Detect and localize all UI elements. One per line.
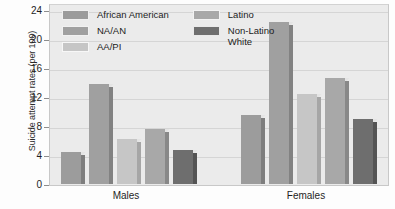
bar-side (289, 25, 293, 184)
bar-males-aa-pi (117, 139, 141, 184)
legend-column-left: African American NA/AN AA/PI (62, 9, 169, 57)
bar-side (165, 132, 169, 184)
bar-side (373, 122, 377, 184)
bar-males-african-american (61, 152, 85, 184)
y-tick-label-20: 20 (20, 35, 42, 45)
bar-females-aa-pi (297, 94, 321, 184)
bar-side (261, 118, 265, 184)
legend-item-non-latino-white: Non-Latino White (193, 25, 274, 47)
bar-chart-figure: Suicide attempt rates (per 100) 24 20 16… (0, 0, 395, 209)
legend-swatch-icon (193, 26, 220, 36)
bar-side (345, 81, 349, 184)
legend-label: Latino (228, 9, 254, 20)
y-tick-label-12: 12 (20, 93, 42, 103)
legend-item-latino: Latino (193, 9, 274, 20)
group-label-females: Females (261, 190, 351, 201)
y-tick-label-0: 0 (20, 180, 42, 190)
y-tick-label-24: 24 (20, 6, 42, 16)
bar-males-latino (145, 129, 169, 184)
legend-swatch-icon (62, 10, 89, 20)
bar-females-latino (325, 78, 349, 184)
bar-face (89, 84, 109, 184)
legend-item-na-an: NA/AN (62, 25, 169, 36)
bar-face (145, 129, 165, 184)
legend-swatch-icon (193, 10, 220, 20)
bar-face (61, 152, 81, 184)
bar-face (241, 115, 261, 184)
legend-swatch-icon (62, 42, 89, 52)
bar-face (117, 139, 137, 184)
bar-males-non-latino-white (173, 150, 197, 184)
y-tick-label-16: 16 (20, 64, 42, 74)
y-tick-label-4: 4 (20, 151, 42, 161)
bar-females-african-american (241, 115, 265, 184)
legend-item-african-american: African American (62, 9, 169, 20)
bar-side (81, 155, 85, 184)
bar-side (137, 142, 141, 184)
legend-swatch-icon (62, 26, 89, 36)
bar-males-na-an (89, 84, 113, 184)
legend-item-aa-pi: AA/PI (62, 41, 169, 52)
y-tick-label-8: 8 (20, 122, 42, 132)
bar-face (325, 78, 345, 184)
legend-label: African American (97, 9, 169, 20)
bar-side (317, 97, 321, 184)
bar-face (173, 150, 193, 184)
legend-label: NA/AN (97, 25, 126, 36)
chart-legend: African American NA/AN AA/PI Latino Non-… (62, 9, 274, 57)
legend-column-right: Latino Non-Latino White (193, 9, 274, 57)
bar-females-non-latino-white (353, 119, 377, 184)
legend-label: AA/PI (97, 41, 121, 52)
bar-side (193, 153, 197, 184)
bar-side (109, 87, 113, 184)
legend-label: Non-Latino White (228, 25, 274, 47)
bar-face (353, 119, 373, 184)
bar-face (297, 94, 317, 184)
group-label-males: Males (81, 190, 171, 201)
